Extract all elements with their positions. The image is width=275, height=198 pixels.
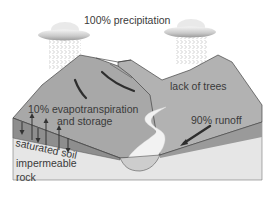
rain-right [175,37,207,65]
cloud-left-icon [38,22,90,41]
watershed-diagram: 100% precipitation lack of trees 10% eva… [0,0,275,198]
storage-label: and storage [57,115,113,127]
impermeable-label: impermeable [16,157,77,169]
precipitation-label: 100% precipitation [84,14,171,26]
cloud-right-icon [164,19,216,38]
runoff-label: 90% runoff [191,114,242,126]
evapotranspiration-label: 10% evapotranspiration [28,103,138,115]
rock-label: rock [16,171,37,183]
lack-of-trees-label: lack of trees [170,80,227,92]
